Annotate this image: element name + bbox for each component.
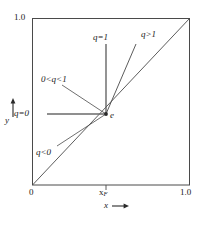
feed-point-marker bbox=[104, 112, 108, 116]
x-axis-title: x bbox=[104, 201, 108, 210]
x-tick-label-1.0: 1.0 bbox=[180, 188, 191, 197]
y-axis-title: y bbox=[5, 116, 9, 125]
x-tick-label-xf: xF bbox=[99, 188, 107, 198]
annotation-q-equals-1: q=1 bbox=[93, 33, 108, 42]
annotation-q-less-than-0: q<0 bbox=[36, 148, 51, 157]
y-tick-label-1.0: 1.0 bbox=[14, 13, 25, 22]
x-axis-arrow-icon bbox=[112, 204, 129, 209]
clipped-caption-strip bbox=[0, 217, 214, 227]
x-tick-label-0: 0 bbox=[29, 188, 34, 197]
q-line-diagram: 1.0 0 xF 1.0 y x e q>1 q=1 0<q<1 q=0 q<0 bbox=[0, 0, 214, 227]
annotation-q-between-0-and-1: 0<q<1 bbox=[41, 75, 67, 84]
x-tick-label-xf-subscript: F bbox=[104, 190, 108, 197]
feed-point-label: e bbox=[110, 111, 114, 120]
clipped-caption-text bbox=[4, 217, 6, 222]
annotation-q-greater-than-1: q>1 bbox=[141, 30, 156, 39]
annotation-q-equals-0: q=0 bbox=[14, 109, 29, 118]
